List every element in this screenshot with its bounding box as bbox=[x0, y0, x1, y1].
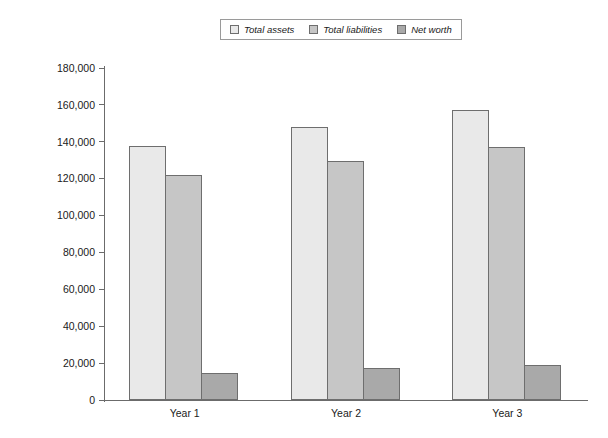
y-axis-tick-label: 60,000 bbox=[63, 284, 99, 295]
bar-total-assets-year-1 bbox=[129, 146, 166, 400]
y-axis-tick: 160,000 bbox=[57, 99, 104, 111]
bar-total-assets-year-2 bbox=[291, 127, 328, 400]
bar-net-worth-year-1 bbox=[201, 373, 238, 400]
y-axis-tick-label: 180,000 bbox=[57, 63, 99, 74]
y-axis-tick-mark bbox=[99, 68, 104, 69]
y-axis-tick: 20,000 bbox=[63, 357, 104, 369]
y-axis-tick: 180,000 bbox=[57, 62, 104, 74]
x-axis-label: Year 3 bbox=[492, 408, 522, 419]
legend-item-total-assets: Total assets bbox=[230, 25, 294, 35]
legend-swatch-total-liabilities bbox=[309, 25, 318, 34]
y-axis-tick: 40,000 bbox=[63, 320, 104, 332]
y-axis-tick-label: 120,000 bbox=[57, 173, 99, 184]
y-axis-tick-mark bbox=[99, 400, 104, 401]
bar-group bbox=[452, 68, 560, 400]
y-axis-tick-mark bbox=[99, 252, 104, 253]
y-axis-tick: 100,000 bbox=[57, 210, 104, 222]
bar-group bbox=[129, 68, 237, 400]
x-axis-label: Year 1 bbox=[170, 408, 200, 419]
legend-label-total-assets: Total assets bbox=[244, 25, 294, 35]
bar-group bbox=[291, 68, 399, 400]
y-axis-tick-mark bbox=[99, 326, 104, 327]
y-axis-tick-label: 80,000 bbox=[63, 247, 99, 258]
bar-net-worth-year-3 bbox=[524, 365, 561, 400]
y-axis-tick-mark bbox=[99, 104, 104, 105]
y-axis-tick-label: 100,000 bbox=[57, 210, 99, 221]
legend-swatch-total-assets bbox=[230, 25, 239, 34]
y-axis-tick: 140,000 bbox=[57, 136, 104, 148]
bar-total-assets-year-3 bbox=[452, 110, 489, 401]
legend-label-net-worth: Net worth bbox=[411, 25, 452, 35]
bar-total-liabilities-year-1 bbox=[165, 175, 202, 400]
chart-legend: Total assets Total liabilities Net worth bbox=[220, 19, 462, 40]
y-axis-tick-mark bbox=[99, 141, 104, 142]
legend-swatch-net-worth bbox=[397, 25, 406, 34]
y-axis-tick-label: 0 bbox=[89, 395, 99, 406]
bar-chart: Total assets Total liabilities Net worth… bbox=[0, 0, 608, 438]
y-axis-tick-label: 40,000 bbox=[63, 321, 99, 332]
y-axis-tick: 80,000 bbox=[63, 246, 104, 258]
plot-area: 020,00040,00060,00080,000100,000120,0001… bbox=[104, 68, 588, 400]
bar-net-worth-year-2 bbox=[363, 368, 400, 400]
y-axis-tick-label: 140,000 bbox=[57, 137, 99, 148]
y-axis-tick: 60,000 bbox=[63, 283, 104, 295]
legend-item-total-liabilities: Total liabilities bbox=[309, 25, 382, 35]
y-axis-tick-mark bbox=[99, 363, 104, 364]
legend-item-net-worth: Net worth bbox=[397, 25, 452, 35]
bar-total-liabilities-year-2 bbox=[327, 161, 364, 400]
y-axis-tick: 120,000 bbox=[57, 173, 104, 185]
y-axis-tick-mark bbox=[99, 178, 104, 179]
y-axis-tick-mark bbox=[99, 215, 104, 216]
y-axis-tick-label: 160,000 bbox=[57, 100, 99, 111]
y-axis-tick-mark bbox=[99, 289, 104, 290]
y-axis-tick: 0 bbox=[89, 394, 104, 406]
x-axis-line bbox=[104, 400, 588, 401]
legend-label-total-liabilities: Total liabilities bbox=[323, 25, 382, 35]
x-axis-label: Year 2 bbox=[331, 408, 361, 419]
bar-total-liabilities-year-3 bbox=[488, 147, 525, 400]
y-axis-tick-label: 20,000 bbox=[63, 358, 99, 369]
